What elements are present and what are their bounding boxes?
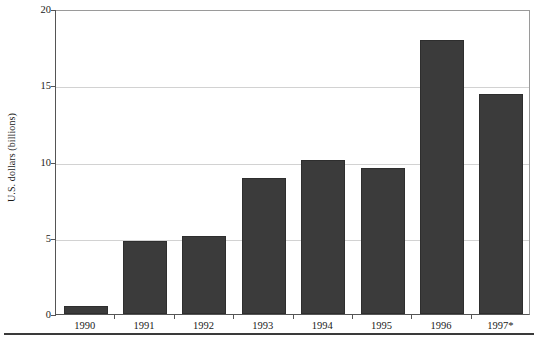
bar xyxy=(361,168,405,314)
bar xyxy=(242,178,286,314)
y-tick-label: 10 xyxy=(25,158,51,168)
bar xyxy=(123,241,167,314)
y-tick-label: 20 xyxy=(25,5,51,15)
y-axis-title-label: U.S. dollars (billions) xyxy=(6,113,17,202)
y-tick-mark xyxy=(51,239,56,240)
bar xyxy=(420,40,464,315)
bars-group xyxy=(56,11,529,314)
plot-area xyxy=(55,10,530,315)
x-tick-label: 1995 xyxy=(352,319,411,332)
y-tick-mark xyxy=(51,10,56,11)
x-tick-label: 1992 xyxy=(174,319,233,332)
y-axis-title: U.S. dollars (billions) xyxy=(0,0,22,315)
x-tick-label: 1990 xyxy=(55,319,114,332)
y-tick-label: 15 xyxy=(25,81,51,91)
bar-chart-figure: U.S. dollars (billions) 05101520 1990199… xyxy=(0,0,538,340)
y-tick-label: 5 xyxy=(25,234,51,244)
x-tick-label: 1996 xyxy=(411,319,470,332)
bar xyxy=(64,306,108,314)
y-tick-label: 0 xyxy=(25,310,51,320)
bar xyxy=(301,160,345,314)
y-axis-tick-labels: 05101520 xyxy=(22,0,51,340)
x-tick-label: 1997* xyxy=(471,319,530,332)
x-tick-label: 1993 xyxy=(233,319,292,332)
x-tick-label: 1991 xyxy=(114,319,173,332)
y-tick-mark xyxy=(51,163,56,164)
bar xyxy=(182,236,226,314)
x-tick-label: 1994 xyxy=(293,319,352,332)
y-tick-mark xyxy=(51,86,56,87)
bottom-rule-divider xyxy=(4,333,534,335)
bar xyxy=(479,94,523,314)
y-tick-mark xyxy=(51,315,56,316)
